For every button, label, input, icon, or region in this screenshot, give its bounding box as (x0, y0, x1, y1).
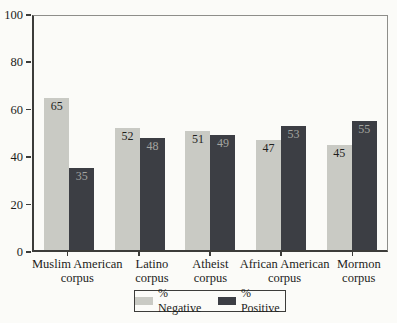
bar-value-label: 35 (65, 170, 98, 183)
bar-value-label: 55 (348, 123, 381, 136)
legend-entry-positive: % Positive (218, 286, 285, 316)
bar-group: 4555 (316, 121, 387, 250)
y-tick-label: 100 (0, 8, 23, 22)
x-tick-mark (280, 252, 282, 256)
legend: % Negative % Positive (134, 290, 286, 312)
x-tick-mark (67, 252, 69, 256)
legend-label-negative: % Negative (158, 286, 206, 316)
legend-label-positive: % Positive (241, 286, 285, 316)
y-tick-mark (26, 251, 31, 253)
y-tick-label: 0 (0, 245, 23, 259)
y-tick-label: 80 (0, 55, 23, 69)
bar: 53 (281, 126, 306, 250)
x-category-label: African Americancorpus (240, 258, 330, 285)
bar-value-label: 53 (277, 128, 310, 141)
bar-chart-figure: 020406080100 65355248514947534555 Muslim… (0, 0, 397, 323)
y-tick-label: 40 (0, 150, 23, 164)
x-category-label: Muslim Americancorpus (32, 258, 123, 285)
y-axis: 020406080100 (0, 15, 26, 252)
x-category-label: Mormoncorpus (330, 258, 389, 285)
y-tick-mark (26, 61, 31, 63)
bar-groups: 65355248514947534555 (34, 16, 387, 250)
y-tick-mark (26, 156, 31, 158)
y-tick-mark (26, 109, 31, 111)
bar: 55 (352, 121, 377, 250)
negative-series-swatch (135, 297, 153, 305)
y-tick-label: 20 (0, 198, 23, 212)
bar: 35 (69, 168, 94, 250)
x-category-label: Latinocorpus (123, 258, 182, 285)
bar-value-label: 48 (136, 140, 169, 153)
plot-inner: 65355248514947534555 (34, 16, 387, 250)
x-axis-labels: Muslim AmericancorpusLatinocorpusAtheist… (32, 258, 388, 285)
bar-group: 4753 (246, 126, 317, 250)
bar: 48 (140, 138, 165, 250)
bar-group: 5149 (175, 131, 246, 250)
legend-entry-negative: % Negative (135, 286, 206, 316)
x-tick-mark (352, 252, 354, 256)
y-tick-mark (26, 14, 31, 16)
bar-group: 5248 (105, 128, 176, 250)
bar: 47 (256, 140, 281, 250)
bar: 49 (210, 135, 235, 250)
x-tick-mark (138, 252, 140, 256)
y-tick-label: 60 (0, 103, 23, 117)
plot-area: 65355248514947534555 (32, 15, 388, 252)
bar-value-label: 65 (40, 100, 73, 113)
bar: 45 (327, 145, 352, 250)
y-tick-mark (26, 204, 31, 206)
bar-value-label: 49 (206, 137, 239, 150)
x-category-label: Atheistcorpus (181, 258, 240, 285)
x-tick-mark (209, 252, 211, 256)
positive-series-swatch (218, 297, 236, 305)
bar-group: 6535 (34, 98, 105, 250)
